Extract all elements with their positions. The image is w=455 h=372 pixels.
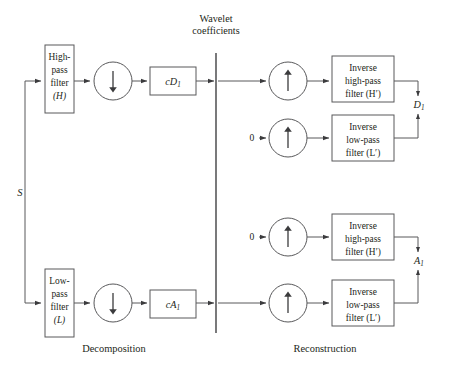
inverse-filter-3-line2: high-pass: [345, 234, 381, 244]
wire-filter-3-to-a1: [394, 237, 418, 252]
wire-filter-4-to-a1: [394, 270, 418, 303]
wavelet-coefficients-title-line2: coefficients: [192, 25, 239, 36]
lowpass-filter-label-line2: pass: [51, 289, 67, 299]
output-d1-label: D1: [413, 99, 425, 112]
inverse-filter-4-line2: low-pass: [346, 300, 380, 310]
wire-filter-2-to-d1: [394, 114, 418, 138]
section-label-decomposition: Decomposition: [82, 343, 146, 354]
zero-input-label-row2: 0: [250, 132, 255, 143]
wavelet-decomposition-reconstruction-diagram: Wavelet coefficients S High- pass filter…: [0, 0, 455, 372]
inverse-filter-1-line3: filter (H′): [345, 89, 381, 100]
input-signal-label: S: [17, 187, 23, 198]
inverse-filter-2-line3: filter (L′): [346, 148, 381, 159]
inverse-filter-2-line2: low-pass: [346, 135, 380, 145]
wire-filter-1-to-d1: [394, 81, 418, 96]
highpass-filter-label-line2: pass: [51, 65, 67, 75]
zero-input-label-row3: 0: [250, 231, 255, 242]
highpass-filter-label-line3: filter: [50, 78, 69, 88]
inverse-filter-4-line1: Inverse: [349, 287, 377, 297]
output-a1-label: A1: [413, 255, 424, 268]
section-label-reconstruction: Reconstruction: [294, 343, 358, 354]
figure-canvas: Wavelet coefficients S High- pass filter…: [0, 0, 455, 372]
inverse-filter-1-line2: high-pass: [345, 76, 381, 86]
lowpass-filter-label-line1: Low-: [49, 276, 69, 286]
inverse-filter-1-line1: Inverse: [349, 63, 377, 73]
wavelet-coefficients-title-line1: Wavelet: [199, 13, 232, 24]
lowpass-filter-label-line4: (L): [54, 315, 65, 326]
inverse-filter-4-line3: filter (L′): [346, 313, 381, 324]
inverse-filter-2-line1: Inverse: [349, 122, 377, 132]
lowpass-filter-label-line3: filter: [50, 302, 69, 312]
inverse-filter-3-line3: filter (H′): [345, 247, 381, 258]
highpass-filter-label-line4: (H): [53, 91, 66, 102]
inverse-filter-3-line1: Inverse: [349, 221, 377, 231]
highpass-filter-label-line1: High-: [49, 52, 71, 62]
